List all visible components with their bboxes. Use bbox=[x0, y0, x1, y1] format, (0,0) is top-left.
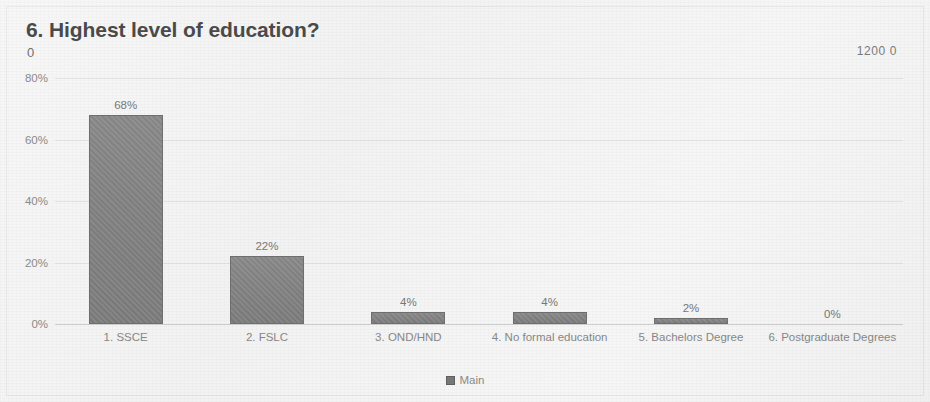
x-axis-category-label: 3. OND/HND bbox=[338, 330, 479, 344]
bar-group: 2% bbox=[620, 78, 761, 324]
bar-value-label: 2% bbox=[683, 302, 700, 314]
x-axis-labels: 1. SSCE2. FSLC3. OND/HND4. No formal edu… bbox=[55, 330, 903, 372]
legend-item-label: Main bbox=[460, 374, 485, 386]
x-axis-category-label: 5. Bachelors Degree bbox=[620, 330, 761, 344]
bar-value-label: 4% bbox=[541, 296, 558, 308]
bar[interactable] bbox=[89, 115, 163, 324]
bar[interactable] bbox=[513, 312, 587, 324]
bar[interactable] bbox=[654, 318, 728, 324]
bar[interactable] bbox=[230, 256, 304, 324]
bar-value-label: 4% bbox=[400, 296, 417, 308]
bar-group: 68% bbox=[55, 78, 196, 324]
bar[interactable] bbox=[371, 312, 445, 324]
y-axis-tick-label: 40% bbox=[25, 195, 48, 207]
bar-value-label: 68% bbox=[114, 99, 137, 111]
corner-total-value: 1200 0 bbox=[857, 44, 897, 58]
bar-group: 4% bbox=[338, 78, 479, 324]
page-title: 6. Highest level of education? bbox=[26, 18, 319, 42]
x-axis-category-label: 2. FSLC bbox=[196, 330, 337, 344]
legend-square-icon bbox=[446, 376, 455, 385]
bars-layer: 68%22%4%4%2%0% bbox=[55, 78, 903, 324]
y-axis-tick-label: 20% bbox=[25, 257, 48, 269]
scanned-chart-page: 6. Highest level of education? 0 1200 0 … bbox=[0, 0, 930, 402]
x-axis-category-label: 1. SSCE bbox=[55, 330, 196, 344]
bar-value-label: 22% bbox=[255, 240, 278, 252]
x-axis-category-label: 4. No formal education bbox=[479, 330, 620, 344]
y-axis-tick-label: 0% bbox=[31, 318, 48, 330]
x-axis-category-label: 6. Postgraduate Degrees bbox=[762, 330, 903, 344]
y-axis-tick-label: 60% bbox=[25, 134, 48, 146]
bar-group: 0% bbox=[762, 78, 903, 324]
bar-value-label: 0% bbox=[824, 308, 841, 320]
chart-legend: Main bbox=[0, 374, 930, 386]
plot-area: 80%60%40%20%0% 68%22%4%4%2%0% bbox=[55, 78, 903, 324]
bar-group: 4% bbox=[479, 78, 620, 324]
y-axis-tick-label: 80% bbox=[25, 72, 48, 84]
axis-baseline: 0% bbox=[55, 324, 903, 325]
bar-group: 22% bbox=[196, 78, 337, 324]
subtitle-zero-value: 0 bbox=[27, 45, 34, 60]
